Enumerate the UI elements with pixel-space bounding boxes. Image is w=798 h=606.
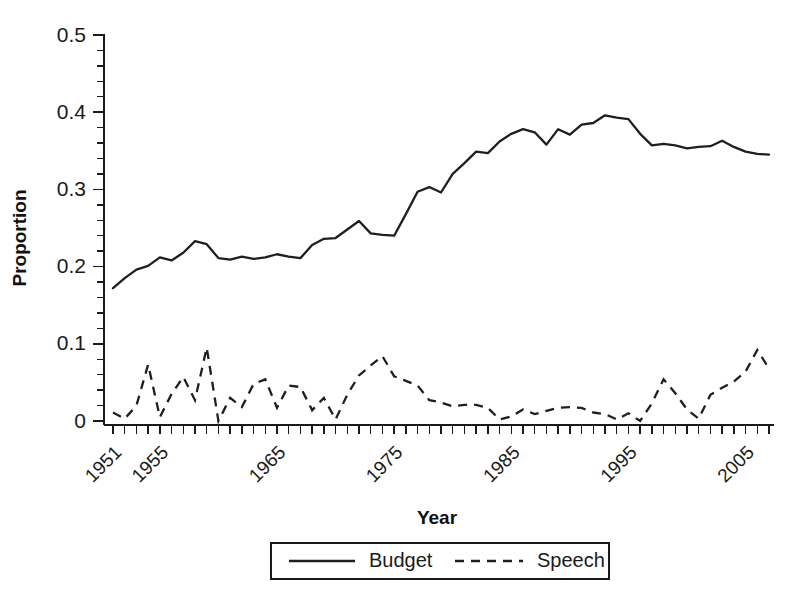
y-tick-label: 0.1 [57,331,86,354]
x-axis-tick-labels: 1951195519651975198519952005 [81,442,758,487]
chart-container: 00.10.20.30.40.5 19511955196519751985199… [0,0,798,606]
y-tick-label: 0.5 [57,23,86,46]
y-tick-label: 0.4 [57,100,87,123]
legend: Budget Speech [271,543,609,579]
x-tick-label: 1951 [81,442,126,487]
series-line-speech [113,348,769,421]
y-tick-label: 0 [74,409,86,432]
y-axis-ticks [93,35,104,421]
y-axis-tick-labels: 00.10.20.30.40.5 [57,23,87,432]
x-axis-ticks [113,425,769,434]
legend-label-budget: Budget [369,549,433,571]
series-line-budget [113,115,769,288]
legend-label-speech: Speech [537,549,605,571]
x-tick-label: 1975 [362,442,407,487]
x-tick-label: 1985 [479,442,524,487]
line-chart-svg: 00.10.20.30.40.5 19511955196519751985199… [0,0,798,606]
x-axis-group: 1951195519651975198519952005 [81,425,774,486]
x-tick-label: 1965 [245,442,290,487]
series-group [113,115,769,421]
y-tick-label: 0.2 [57,254,86,277]
y-axis-title: Proportion [9,189,30,286]
y-axis-group: 00.10.20.30.40.5 [57,23,104,432]
x-axis-title: Year [417,507,458,528]
x-tick-label: 1995 [596,442,641,487]
x-tick-label: 1955 [128,442,173,487]
x-tick-label: 2005 [713,442,758,487]
y-tick-label: 0.3 [57,177,86,200]
